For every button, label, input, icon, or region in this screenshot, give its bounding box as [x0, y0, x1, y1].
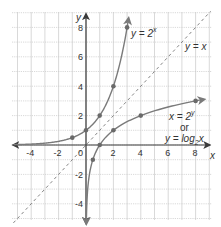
svg-text:4: 4	[138, 148, 143, 158]
svg-text:2: 2	[110, 148, 115, 158]
y-axis-label: y	[75, 12, 82, 23]
svg-text:8: 8	[78, 23, 83, 33]
graph: -4-2024688642-2-4 y x y = 2x y = x x = 2…	[0, 0, 221, 227]
svg-text:-4: -4	[75, 199, 83, 209]
svg-text:2: 2	[78, 111, 83, 121]
svg-text:-2: -2	[54, 148, 62, 158]
svg-text:6: 6	[78, 52, 83, 62]
svg-text:-4: -4	[26, 148, 34, 158]
identity-line-label: y = x	[184, 41, 207, 52]
svg-text:-2: -2	[75, 170, 83, 180]
svg-text:4: 4	[78, 82, 83, 92]
svg-text:0: 0	[78, 148, 83, 158]
svg-text:8: 8	[193, 148, 198, 158]
log-curve-label-line1: x = 2y	[168, 109, 195, 122]
x-axis-label: x	[209, 150, 216, 161]
svg-text:6: 6	[165, 148, 170, 158]
exp-curve-label: y = 2x	[130, 26, 157, 39]
log-curve-label-line3: y = log2x	[164, 133, 205, 146]
log-curve-label-line2: or	[180, 122, 190, 133]
